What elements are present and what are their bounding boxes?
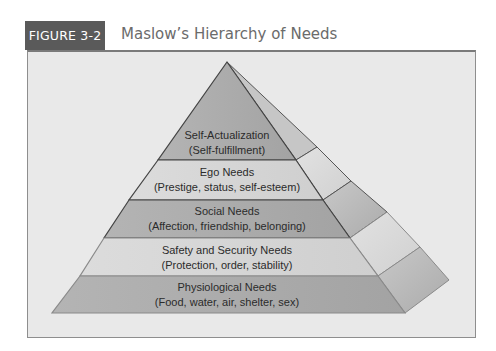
level-ego: Ego Needs (Prestige, status, self-esteem… [154,165,300,195]
level-detail: (Self-fulfillment) [185,143,270,158]
level-self-actualization: Self-Actualization (Self-fulfillment) [185,128,270,158]
level-detail: (Affection, friendship, belonging) [148,219,306,234]
level-detail: (Protection, order, stability) [162,258,293,273]
level-name: Social Needs [148,204,306,219]
level-name: Self-Actualization [185,128,270,143]
level-physiological: Physiological Needs (Food, water, air, s… [155,280,299,310]
level-detail: (Prestige, status, self-esteem) [154,180,300,195]
level-detail: (Food, water, air, shelter, sex) [155,295,299,310]
level-name: Safety and Security Needs [162,243,293,258]
level-safety: Safety and Security Needs (Protection, o… [162,243,293,273]
level-name: Physiological Needs [155,280,299,295]
level-social: Social Needs (Affection, friendship, bel… [148,204,306,234]
level-name: Ego Needs [154,165,300,180]
